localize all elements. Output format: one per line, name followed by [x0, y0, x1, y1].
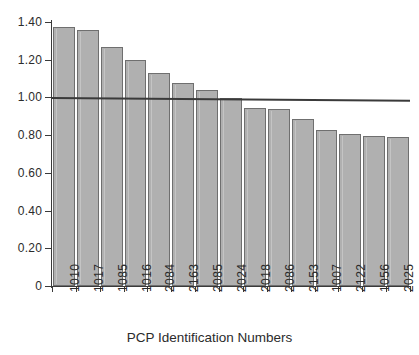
x-axis-tick-label: 2085 [212, 264, 224, 292]
bar [125, 60, 147, 286]
bar [244, 108, 266, 286]
bar [316, 130, 338, 286]
y-axis-tick-label: 0.40 [0, 205, 42, 217]
y-axis-tick-label: 0 [0, 280, 42, 292]
x-axis-tick-label: 2025 [403, 264, 415, 292]
y-axis-tick [45, 97, 52, 98]
bar [148, 73, 170, 286]
x-axis-tick-label: 2018 [260, 264, 272, 292]
x-axis-tick-label: 2086 [284, 264, 296, 292]
x-axis-tick-label: 1007 [331, 264, 343, 292]
bar-chart: 00.200.400.600.801.001.201.40 1010101710… [0, 0, 419, 355]
x-axis-tick-label: 1085 [117, 264, 129, 292]
y-axis-tick [45, 22, 52, 23]
y-axis-tick [45, 135, 52, 136]
y-axis-tick-label: 1.40 [0, 16, 42, 28]
bar [220, 98, 242, 286]
x-axis-tick-label: 1010 [69, 264, 81, 292]
y-axis-tick [45, 211, 52, 212]
bar [77, 30, 99, 286]
bar [268, 109, 290, 286]
x-axis-tick-label: 2163 [188, 264, 200, 292]
bar [172, 83, 194, 286]
x-axis-tick-label: 1056 [379, 264, 391, 292]
y-axis-tick-label: 1.00 [0, 91, 42, 103]
y-axis-tick-label: 1.20 [0, 54, 42, 66]
y-axis-tick-label: 0.80 [0, 129, 42, 141]
x-axis-tick-label: 2024 [236, 264, 248, 292]
x-axis-tick-label: 1016 [141, 264, 153, 292]
y-axis-tick [45, 60, 52, 61]
y-axis-tick-label: 0.20 [0, 242, 42, 254]
y-axis-tick [45, 286, 52, 287]
x-axis-tick-label: 2084 [164, 264, 176, 292]
y-axis-tick [45, 173, 52, 174]
y-axis-tick-label: 0.60 [0, 167, 42, 179]
x-axis-title: PCP Identification Numbers [0, 330, 419, 346]
x-axis-tick-label: 2153 [308, 264, 320, 292]
bar [292, 119, 314, 286]
x-axis-tick-label: 2122 [355, 264, 367, 292]
x-axis-tick-label: 1017 [93, 264, 105, 292]
bar [196, 90, 218, 286]
bar [101, 47, 123, 286]
x-axis-tick [52, 286, 53, 292]
y-axis-tick [45, 248, 52, 249]
bar [53, 27, 75, 286]
